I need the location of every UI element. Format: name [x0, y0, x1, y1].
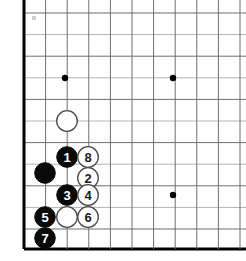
go-stone-black-3[interactable]: 3 — [57, 185, 78, 206]
go-stone-white[interactable] — [57, 111, 78, 132]
move-number-label: 2 — [84, 171, 91, 186]
go-stone-white-4[interactable]: 4 — [78, 185, 99, 206]
go-stone-black[interactable] — [35, 163, 56, 184]
go-stone-black-7[interactable]: 7 — [35, 228, 56, 249]
go-stone-white-8[interactable]: 8 — [78, 147, 99, 168]
go-stone-white[interactable] — [57, 207, 78, 228]
go-stone-white-6[interactable]: 6 — [78, 207, 99, 228]
white-stone-icon — [57, 111, 78, 132]
stone-layer: 18234567 — [0, 0, 246, 261]
move-number-label: 6 — [84, 210, 91, 225]
move-number-label: 3 — [63, 188, 70, 203]
move-number-label: 5 — [41, 210, 48, 225]
move-number-label: 7 — [41, 231, 48, 246]
black-stone-icon — [35, 163, 56, 184]
move-number-label: 4 — [84, 188, 92, 203]
go-stone-black-1[interactable]: 1 — [57, 147, 78, 168]
white-stone-icon — [57, 207, 78, 228]
go-stone-black-5[interactable]: 5 — [35, 207, 56, 228]
go-board-diagram: 18234567 — [0, 0, 246, 261]
move-number-label: 1 — [63, 150, 70, 165]
move-number-label: 8 — [84, 150, 91, 165]
